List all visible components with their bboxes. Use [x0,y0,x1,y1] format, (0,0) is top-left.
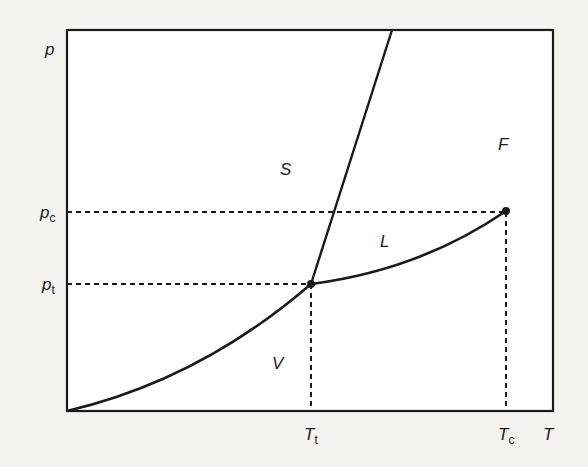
region-solid-label: S [280,160,292,179]
tc-tick-label: Tc [498,425,514,447]
region-fluid-label: F [498,135,510,154]
critical-point-marker [502,207,510,215]
pc-tick-label: pc [39,203,55,225]
phase-diagram: p T pc pt Tt Tc S L V F [0,0,588,467]
plot-frame [67,30,553,411]
x-axis-label: T [543,425,555,444]
region-vapor-label: V [272,354,285,373]
tt-tick-label: Tt [304,425,318,447]
y-axis-label: p [44,40,54,59]
region-liquid-label: L [380,232,389,251]
triple-point-marker [307,280,315,288]
pt-tick-label: pt [41,275,55,297]
